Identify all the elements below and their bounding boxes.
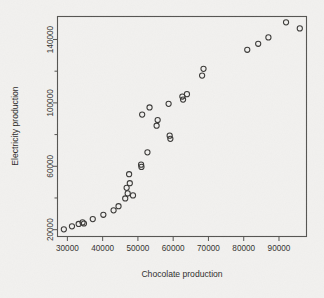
data-point [154, 123, 159, 128]
data-point [145, 150, 150, 155]
data-point [297, 26, 302, 31]
data-point [166, 101, 171, 106]
data-point [155, 117, 160, 122]
data-point [101, 212, 106, 217]
x-tick-label: 80000 [232, 244, 255, 253]
data-point [168, 136, 173, 141]
x-axis-ticks: 30000400005000060000700008000090000 [56, 237, 291, 253]
y-tick-label: 20000 [46, 218, 55, 241]
y-axis-title: Electricity production [10, 86, 20, 166]
data-points [61, 20, 302, 232]
y-axis-ticks: 2000060000100000140000 [46, 25, 58, 241]
data-point [127, 172, 132, 177]
plot-box [58, 17, 307, 237]
data-point [200, 73, 205, 78]
x-tick-label: 70000 [197, 244, 220, 253]
y-tick-label: 60000 [46, 154, 55, 177]
data-point [111, 208, 116, 213]
plot-canvas: 30000400005000060000700008000090000 2000… [0, 0, 324, 298]
y-tick-label: 100000 [46, 89, 55, 117]
x-tick-label: 90000 [268, 244, 291, 253]
data-point [266, 35, 271, 40]
x-tick-label: 30000 [56, 244, 79, 253]
data-point [127, 181, 132, 186]
data-point [81, 221, 86, 226]
x-tick-label: 40000 [91, 244, 114, 253]
data-point [130, 193, 135, 198]
data-point [147, 105, 152, 110]
data-point [123, 196, 128, 201]
data-point [116, 204, 121, 209]
data-point [256, 41, 261, 46]
plot-frame [58, 17, 307, 237]
scatter-plot-figure: 30000400005000060000700008000090000 2000… [0, 0, 324, 298]
data-point [184, 92, 189, 97]
data-point [245, 47, 250, 52]
y-tick-label: 140000 [46, 25, 55, 53]
data-point [69, 224, 74, 229]
x-tick-label: 60000 [162, 244, 185, 253]
data-point [61, 227, 66, 232]
x-axis-title: Chocolate production [141, 269, 222, 279]
data-point [90, 216, 95, 221]
data-point [140, 112, 145, 117]
data-point [201, 66, 206, 71]
data-point [283, 20, 288, 25]
x-tick-label: 50000 [127, 244, 150, 253]
data-point [125, 191, 130, 196]
